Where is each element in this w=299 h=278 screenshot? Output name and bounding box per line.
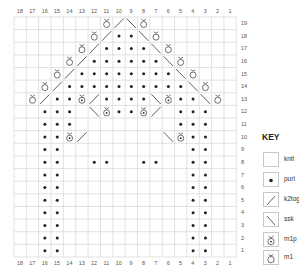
key-purl-label: purl	[284, 175, 295, 182]
stitch-purl	[179, 123, 182, 126]
stitch-purl	[43, 173, 46, 176]
stitch-purl	[56, 211, 59, 214]
stitch-purl	[142, 85, 145, 88]
row-label: 5	[241, 197, 251, 203]
stitch-m1	[141, 19, 147, 27]
column-label-bottom: 13	[76, 260, 88, 266]
column-label-top: 2	[212, 8, 224, 14]
stitch-m1p	[104, 108, 110, 116]
stitch-purl	[204, 237, 207, 240]
stitch-purl	[204, 173, 207, 176]
column-label-bottom: 4	[187, 260, 199, 266]
column-label-top: 3	[199, 8, 211, 14]
stitch-purl	[204, 123, 207, 126]
stitch-k2tog	[151, 107, 160, 117]
stitch-k2tog	[65, 69, 74, 79]
stitch-purl	[56, 123, 59, 126]
stitch-purl	[130, 47, 133, 50]
stitch-purl	[130, 85, 133, 88]
stitch-purl	[179, 110, 182, 113]
stitch-ssk	[176, 69, 185, 79]
stitch-purl	[192, 110, 195, 113]
stitch-k2tog	[114, 19, 123, 29]
column-label-bottom: 10	[113, 260, 125, 266]
stitch-purl	[56, 173, 59, 176]
stitch-purl	[68, 85, 71, 88]
row-label: 14	[241, 83, 251, 89]
key-m1-label: m1	[284, 253, 293, 260]
stitch-purl	[43, 186, 46, 189]
row-label: 2	[241, 235, 251, 241]
chart-grid	[0, 0, 299, 278]
stitch-purl	[142, 47, 145, 50]
stitch-purl	[192, 249, 195, 252]
column-label-bottom: 8	[138, 260, 150, 266]
stitch-purl	[56, 237, 59, 240]
stitch-purl	[192, 123, 195, 126]
stitch-purl	[192, 135, 195, 138]
m1p-icon	[264, 234, 278, 247]
stitch-purl	[56, 199, 59, 202]
stitch-purl	[167, 72, 170, 75]
stitch-purl	[68, 110, 71, 113]
column-label-bottom: 16	[39, 260, 51, 266]
stitch-k2tog	[77, 56, 86, 66]
stitch-purl	[130, 98, 133, 101]
row-label: 18	[241, 33, 251, 39]
stitch-purl	[117, 60, 120, 63]
row-label: 16	[241, 58, 251, 64]
stitch-k2tog	[40, 94, 49, 104]
stitch-purl	[43, 249, 46, 252]
column-label-top: 13	[76, 8, 88, 14]
stitch-purl	[117, 34, 120, 37]
stitch-purl	[105, 60, 108, 63]
stitch-purl	[204, 199, 207, 202]
stitch-purl	[56, 249, 59, 252]
stitch-ssk	[151, 44, 160, 54]
stitch-purl	[192, 98, 195, 101]
stitch-purl	[117, 110, 120, 113]
stitch-ssk	[164, 132, 173, 142]
stitch-k2tog	[90, 94, 99, 104]
column-label-bottom: 12	[88, 260, 100, 266]
stitch-k2tog	[90, 44, 99, 54]
stitch-purl	[130, 60, 133, 63]
stitch-purl	[204, 110, 207, 113]
stitch-m1p	[178, 133, 184, 141]
stitch-purl	[43, 161, 46, 164]
stitch-purl	[179, 98, 182, 101]
stitch-m1	[165, 44, 171, 52]
stitch-purl	[105, 161, 108, 164]
column-label-bottom: 18	[14, 260, 26, 266]
column-label-top: 15	[51, 8, 63, 14]
stitch-purl	[130, 34, 133, 37]
stitch-purl	[117, 85, 120, 88]
column-label-top: 16	[39, 8, 51, 14]
stitch-purl	[56, 98, 59, 101]
row-label: 9	[241, 146, 251, 152]
column-label-top: 6	[162, 8, 174, 14]
stitch-k2tog	[102, 31, 111, 41]
stitch-purl	[155, 60, 158, 63]
stitch-m1	[79, 44, 85, 52]
stitch-purl	[68, 98, 71, 101]
stitch-purl	[43, 123, 46, 126]
stitch-purl	[56, 110, 59, 113]
stitch-purl	[155, 85, 158, 88]
column-label-bottom: 14	[63, 260, 75, 266]
stitch-m1	[30, 95, 36, 103]
stitch-purl	[192, 173, 195, 176]
stitch-purl	[155, 72, 158, 75]
stitch-purl	[43, 237, 46, 240]
stitch-purl	[80, 72, 83, 75]
column-label-top: 12	[88, 8, 100, 14]
row-label: 13	[241, 96, 251, 102]
stitch-purl	[93, 72, 96, 75]
stitch-purl	[142, 98, 145, 101]
stitch-ssk	[201, 94, 210, 104]
key-m1p-label: m1p	[284, 235, 297, 242]
stitch-purl	[142, 60, 145, 63]
column-label-top: 5	[175, 8, 187, 14]
stitch-m1	[202, 82, 208, 90]
stitch-purl	[204, 249, 207, 252]
